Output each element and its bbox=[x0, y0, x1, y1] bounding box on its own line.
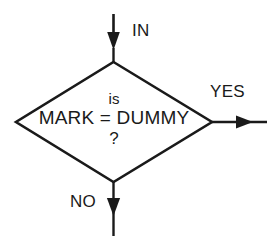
no-arrowhead-icon bbox=[107, 198, 120, 216]
decision-text: is MARK = DUMMY ? bbox=[14, 90, 214, 148]
input-label: IN bbox=[132, 22, 150, 39]
yes-branch-label: YES bbox=[210, 83, 245, 100]
decision-text-line-2: MARK = DUMMY bbox=[14, 107, 214, 129]
input-arrowhead-icon bbox=[107, 32, 120, 50]
no-branch-label: NO bbox=[70, 193, 96, 210]
flowchart-canvas: IN YES NO is MARK = DUMMY ? bbox=[0, 0, 272, 238]
decision-text-line-1: is bbox=[14, 90, 214, 107]
yes-arrowhead-icon bbox=[236, 115, 253, 128]
decision-text-line-3: ? bbox=[14, 129, 214, 148]
